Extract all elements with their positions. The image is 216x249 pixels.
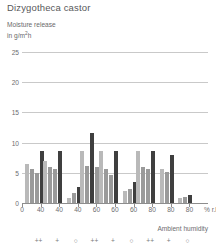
- bar: [48, 167, 52, 203]
- condition-symbol: ○: [74, 237, 78, 244]
- x-axis-tick-labels: 0404040606060808080% r.h.: [0, 206, 216, 216]
- bar: [151, 151, 155, 203]
- x-axis-tick-label: 60: [111, 206, 118, 213]
- x-axis-tick-label: 60: [130, 206, 137, 213]
- bar-group: [136, 151, 155, 203]
- y-axis-label-line1: Moisture release: [7, 21, 56, 28]
- condition-symbol-row: +++○+++○+++○: [0, 237, 216, 247]
- bar: [128, 189, 132, 203]
- y-axis-tick-label: 20: [12, 79, 19, 86]
- bar: [85, 166, 89, 203]
- bar-group: [80, 133, 99, 203]
- bar-group: [160, 155, 174, 203]
- bar: [165, 172, 169, 203]
- bar-group: [25, 151, 44, 203]
- condition-symbol: ++: [146, 237, 154, 244]
- bar: [99, 151, 103, 203]
- y-axis-tick-label: 15: [12, 109, 19, 116]
- condition-symbol: +: [55, 237, 59, 244]
- bar: [25, 164, 29, 203]
- bar: [30, 169, 34, 203]
- bar: [188, 195, 192, 203]
- bar: [72, 193, 76, 203]
- x-axis-caption: Ambient humidity: [157, 225, 208, 232]
- bar: [160, 169, 164, 203]
- bar: [136, 151, 140, 203]
- bar-series: [22, 40, 208, 203]
- condition-symbol: ○: [130, 237, 134, 244]
- bar: [90, 133, 94, 203]
- condition-symbol: ++: [91, 237, 99, 244]
- y-axis-tick-label: 25: [12, 49, 19, 56]
- condition-symbol: ++: [35, 237, 43, 244]
- bar: [53, 169, 57, 203]
- bar: [58, 151, 62, 203]
- y-axis-label-line2-post: h: [28, 32, 32, 39]
- condition-symbol: ○: [185, 237, 189, 244]
- bar-group: [67, 187, 81, 203]
- bar: [109, 175, 113, 203]
- plot-area: 0510152025: [22, 40, 208, 204]
- x-axis-tick-label: 80: [167, 206, 174, 213]
- bar: [146, 169, 150, 203]
- x-axis-tick-label: 80: [149, 206, 156, 213]
- y-axis-label-line2-pre: in g/m: [7, 32, 25, 39]
- condition-symbol: +: [167, 237, 171, 244]
- x-axis-tick-label: 40: [74, 206, 81, 213]
- y-axis-label: Moisture release in g/m2h: [7, 21, 56, 40]
- x-axis-tick-label: 40: [37, 206, 44, 213]
- bar-group: [43, 151, 62, 203]
- x-axis-unit-label: % r.h.: [204, 206, 216, 213]
- bar-group: [123, 182, 137, 203]
- bar: [104, 169, 108, 203]
- x-axis-tick-label: 80: [186, 206, 193, 213]
- bar-group: [178, 195, 192, 203]
- bar: [114, 151, 118, 203]
- y-axis-tick-label: 10: [12, 139, 19, 146]
- bar: [141, 167, 145, 203]
- y-axis-tick-label: 5: [15, 169, 19, 176]
- bar: [123, 191, 127, 203]
- x-axis-tick-label: 40: [56, 206, 63, 213]
- bar-group: [99, 151, 118, 203]
- x-axis-tick-label: 60: [93, 206, 100, 213]
- page-title: Dizygotheca castor: [7, 2, 91, 13]
- x-axis-tick-label: 0: [20, 206, 24, 213]
- chart-container: Dizygotheca castor Moisture release in g…: [0, 0, 216, 249]
- bar: [43, 161, 47, 203]
- bar: [35, 173, 39, 203]
- bar: [170, 155, 174, 203]
- condition-symbol: +: [111, 237, 115, 244]
- bar: [80, 151, 84, 203]
